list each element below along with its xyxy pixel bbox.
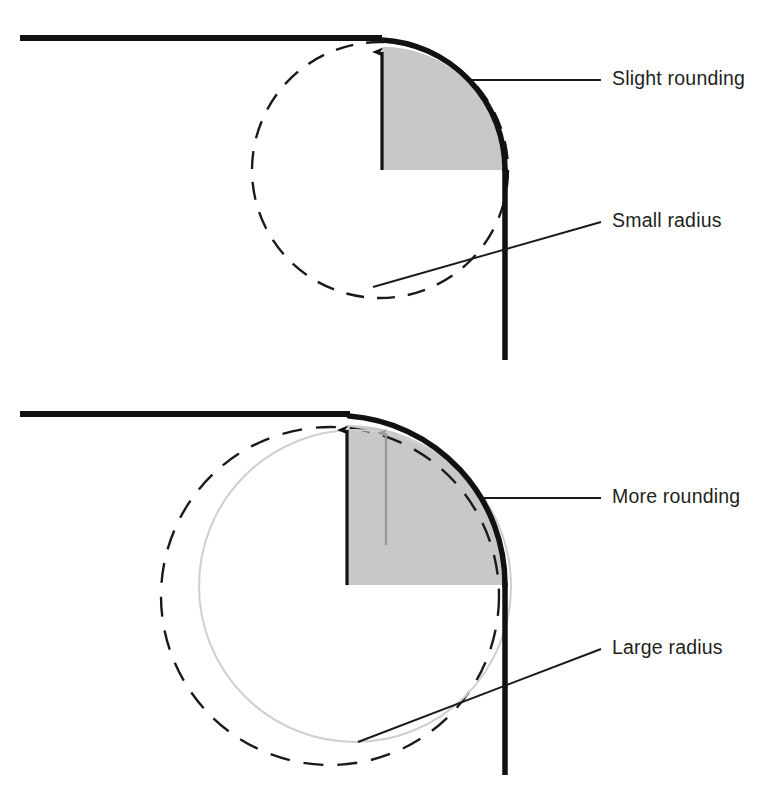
corner-rounding-diagram: Slight rounding Small radius M — [0, 0, 784, 795]
slight-rounding-panel: Slight rounding Small radius — [20, 38, 745, 360]
label-more-rounding: More rounding — [612, 485, 740, 507]
more-rounding-panel: More rounding Large radius — [20, 414, 740, 775]
leader-large-radius — [358, 649, 601, 742]
label-small-radius: Small radius — [612, 209, 722, 231]
figure-root: Slight rounding Small radius M — [0, 0, 784, 795]
label-slight-rounding: Slight rounding — [612, 67, 745, 89]
label-large-radius: Large radius — [612, 636, 723, 658]
leader-small-radius — [373, 222, 601, 287]
